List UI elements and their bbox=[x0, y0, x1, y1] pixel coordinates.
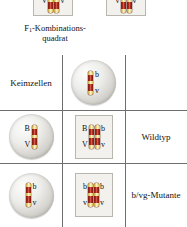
offspring-row-2-cell: b v b v bbox=[62, 163, 125, 227]
caption-subscript: 1 bbox=[29, 27, 32, 33]
zygote-genotype-row-1: B V b v bbox=[75, 115, 113, 159]
chromosome-icon bbox=[54, 0, 59, 13]
grid-corner-cell: Keimzellen bbox=[0, 55, 62, 110]
offspring-row-1-left-allele-top: B bbox=[82, 125, 88, 133]
parent-right-allele-left: v bbox=[116, 0, 120, 5]
parent-left-allele-right: v bbox=[60, 0, 64, 5]
parent-left-allele-left: V bbox=[42, 0, 48, 5]
diagram-caption: F1-Kombinations- quadrat bbox=[0, 24, 110, 44]
caption-rest: -Kombinations- bbox=[32, 23, 86, 33]
parent-genotype-right: v v bbox=[106, 0, 146, 16]
gamete-row-1-cell: B V bbox=[0, 110, 62, 163]
phenotype-row-2-cell: b/vg-Mutante bbox=[125, 163, 187, 227]
chromosome-icon bbox=[89, 125, 94, 149]
chromosome-icon bbox=[48, 0, 53, 13]
gamete-column-header-cell: b v bbox=[62, 55, 125, 110]
gamete-row-1-allele-bottom: V bbox=[25, 141, 31, 149]
keimzellen-label: Keimzellen bbox=[10, 78, 51, 88]
punnett-grid: Keimzellen b v B V bbox=[0, 55, 187, 227]
phenotype-row-1-cell: Wildtyp bbox=[125, 110, 187, 163]
chromosome-icon bbox=[95, 125, 100, 149]
zygote-genotype-row-2: b v b v bbox=[75, 173, 113, 217]
caption-line-2: quadrat bbox=[42, 33, 68, 43]
offspring-row-2-left-allele-top: b bbox=[83, 183, 87, 191]
offspring-row-2-right-allele-top: b bbox=[100, 183, 104, 191]
cross-symbol: × bbox=[88, 0, 94, 2]
chromosome-icon bbox=[94, 183, 99, 207]
gamete-row-2-allele-top: b bbox=[33, 183, 37, 191]
gamete-row-2-allele-bottom: v bbox=[33, 199, 37, 207]
parent-genotype-left: V v bbox=[33, 0, 73, 16]
gamete-column-allele-top: b bbox=[95, 71, 99, 79]
offspring-row-1-right-allele-bottom: v bbox=[101, 141, 105, 149]
gamete-row-2-cell: b v bbox=[0, 163, 62, 227]
chromosome-icon bbox=[32, 125, 37, 149]
gamete-column-allele-bottom: v bbox=[95, 87, 99, 95]
offspring-row-2-right-allele-bottom: v bbox=[100, 199, 104, 207]
phenotype-label-wildtyp: Wildtyp bbox=[125, 132, 187, 142]
gamete-row-1-allele-top: B bbox=[25, 125, 31, 133]
parent-right-allele-right: v bbox=[133, 0, 137, 5]
chromosome-icon bbox=[88, 183, 93, 207]
chromosome-icon bbox=[121, 0, 126, 13]
chromosome-icon bbox=[88, 71, 93, 95]
gamete-cell-row-2: b v bbox=[9, 173, 54, 218]
punnett-square-diagram: V v × v v F1-Kombinations- quadrat bbox=[0, 0, 187, 227]
offspring-row-2-left-allele-bottom: v bbox=[83, 199, 87, 207]
offspring-row-1-left-allele-bottom: V bbox=[82, 141, 88, 149]
chromosome-icon bbox=[127, 0, 132, 13]
chromosome-icon bbox=[26, 183, 31, 207]
grid-header-empty-cell bbox=[125, 55, 187, 110]
gamete-cell-row-1: B V bbox=[9, 114, 54, 159]
phenotype-label-mutante: b/vg-Mutante bbox=[125, 190, 187, 200]
parental-cross-row: V v × v v bbox=[0, 0, 187, 20]
offspring-row-1-right-allele-top: b bbox=[101, 125, 105, 133]
offspring-row-1-cell: B V b v bbox=[62, 110, 125, 163]
gamete-cell-column: b v bbox=[71, 60, 116, 105]
